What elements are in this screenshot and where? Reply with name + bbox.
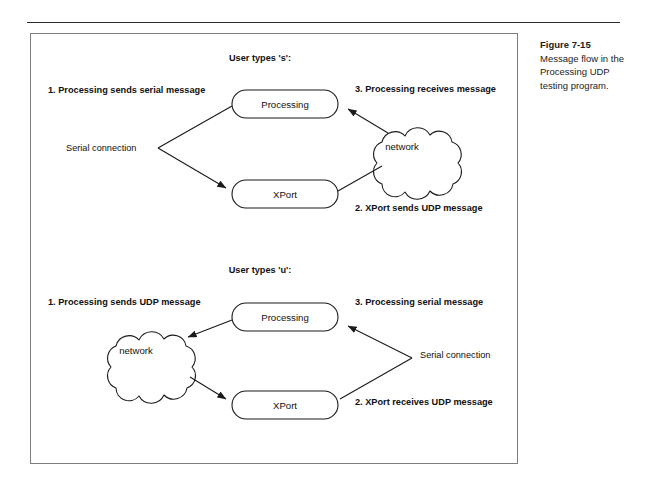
- bottom-serial-to-xport-line: [340, 358, 412, 399]
- top-step-1-label: 1. Processing sends serial message: [48, 85, 205, 95]
- bottom-processing-to-network-arrow: [188, 320, 232, 337]
- bottom-serial-to-processing-arrow: [348, 326, 412, 358]
- caption-title: Figure 7-15: [540, 38, 640, 52]
- bottom-heading: User types 'u':: [229, 265, 292, 275]
- bottom-step-2-label: 2. XPort receives UDP message: [355, 397, 493, 407]
- top-serial-to-processing-line: [158, 106, 232, 148]
- diagram-top-group: User types 's': 1. Processing sends seri…: [48, 53, 496, 213]
- bottom-node-network-cloud: [108, 332, 196, 403]
- top-step-2-label: 2. XPort sends UDP message: [355, 203, 483, 213]
- top-serial-connection-label: Serial connection: [66, 143, 136, 153]
- top-node-network-label: network: [385, 141, 419, 152]
- bottom-node-xport-label: XPort: [273, 400, 297, 411]
- bottom-step-1-label: 1. Processing sends UDP message: [48, 297, 201, 307]
- bottom-network-to-xport-arrow: [190, 377, 226, 399]
- diagram-bottom-group: User types 'u': 1. Processing sends UDP …: [48, 265, 493, 419]
- top-step-3-label: 3. Processing receives message: [355, 84, 496, 94]
- top-node-network-cloud: [374, 128, 462, 199]
- top-serial-to-xport-arrow: [158, 148, 226, 188]
- bottom-node-network-label: network: [119, 345, 153, 356]
- figure-page: Figure 7-15 Message flow in the Processi…: [0, 0, 649, 490]
- top-heading: User types 's':: [229, 53, 291, 63]
- message-flow-diagram: User types 's': 1. Processing sends seri…: [30, 33, 518, 464]
- top-node-xport-label: XPort: [273, 189, 297, 200]
- bottom-node-processing-label: Processing: [261, 312, 308, 323]
- caption-body: Message flow in the Processing UDP testi…: [540, 52, 640, 93]
- figure-caption: Figure 7-15 Message flow in the Processi…: [540, 38, 640, 92]
- bottom-serial-connection-label: Serial connection: [420, 350, 490, 360]
- top-network-to-processing-arrow: [348, 109, 388, 133]
- top-node-processing-label: Processing: [261, 99, 308, 110]
- bottom-step-3-label: 3. Processing serial message: [355, 297, 483, 307]
- top-horizontal-rule: [27, 22, 620, 23]
